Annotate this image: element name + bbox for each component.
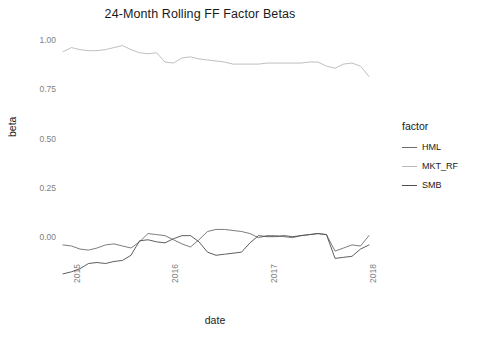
legend-line-icon-hml <box>402 142 417 153</box>
legend-item-hml[interactable]: HML <box>402 139 474 157</box>
legend-line-icon-mkt-rf <box>402 161 417 172</box>
legend-line-icon-smb <box>402 180 417 191</box>
legend-label: HML <box>422 143 441 152</box>
legend-item-mkt-rf[interactable]: MKT_RF <box>402 158 474 176</box>
legend: factor HML MKT_RF SMB <box>402 121 474 196</box>
legend-label: SMB <box>422 181 442 190</box>
series-line-hml <box>63 229 369 251</box>
legend-label: MKT_RF <box>422 162 458 171</box>
plot-area <box>56 30 376 278</box>
chart-container: 24-Month Rolling FF Factor Betas beta da… <box>0 0 477 339</box>
legend-item-smb[interactable]: SMB <box>402 177 474 195</box>
series-line-smb <box>63 234 369 274</box>
legend-title: factor <box>402 121 474 132</box>
series-line-mkt-rf <box>63 46 369 77</box>
line-series-svg <box>56 30 376 278</box>
